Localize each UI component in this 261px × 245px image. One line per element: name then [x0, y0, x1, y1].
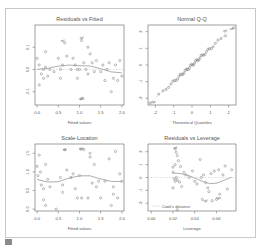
- data-point: [61, 184, 63, 186]
- y-tick-label: 1: [138, 46, 143, 49]
- chart-title: Residuals vs Leverage: [164, 135, 220, 141]
- y-tick-label: 1.0: [25, 168, 30, 174]
- data-point: [36, 165, 38, 167]
- data-point: [95, 59, 97, 61]
- data-point: [172, 187, 174, 189]
- data-point: [53, 71, 55, 73]
- data-point: [119, 59, 121, 61]
- data-point: [87, 46, 89, 48]
- point-annotation: xyz: [151, 100, 156, 104]
- data-point: [72, 173, 74, 175]
- x-tick-label: -2: [153, 110, 157, 115]
- y-tick-label: 0: [138, 176, 143, 179]
- x-tick-label: 2.0: [119, 216, 125, 221]
- data-point: [110, 204, 112, 206]
- data-point: [38, 154, 40, 156]
- data-point: [100, 71, 102, 73]
- y-tick-label: -1: [138, 188, 143, 192]
- data-point: [208, 191, 210, 193]
- y-tick-label: 0.0: [25, 66, 30, 72]
- data-point: [42, 188, 44, 190]
- data-point: [59, 176, 61, 178]
- data-point: [100, 197, 102, 199]
- data-point: [47, 75, 49, 77]
- data-point: [117, 79, 119, 81]
- data-point: [44, 204, 46, 206]
- data-point: [211, 200, 213, 202]
- data-point: [44, 51, 46, 53]
- data-point: [38, 84, 40, 86]
- data-point: [93, 163, 95, 165]
- data-point: [112, 77, 114, 79]
- x-tick-label: 1.5: [98, 110, 104, 115]
- chart-title: Residuals vs Fitted: [56, 16, 102, 22]
- data-point: [89, 152, 91, 154]
- data-point: [76, 197, 78, 199]
- data-point: [42, 199, 44, 201]
- x-tick-label: 0.0: [34, 216, 40, 221]
- data-point: [178, 181, 180, 183]
- data-point: [114, 150, 116, 152]
- data-point: [199, 57, 201, 59]
- data-point: [61, 191, 63, 193]
- data-point: [93, 71, 95, 73]
- data-point: [175, 151, 177, 153]
- data-point: [91, 182, 93, 184]
- x-tick-label: 2: [227, 110, 230, 115]
- y-tick-label: -2: [138, 96, 143, 100]
- data-point: [57, 57, 59, 59]
- plot-frame: Residuals vs FittedFitted values0.00.51.…: [5, 8, 256, 238]
- data-point: [181, 185, 183, 187]
- y-tick-label: 0.5: [25, 187, 30, 193]
- chart-residuals-vs-leverage: Residuals vs LeverageLeverage0.000.020.0…: [138, 135, 236, 231]
- data-point: [47, 178, 49, 180]
- x-axis-label: Leverage: [183, 226, 201, 231]
- point-annotation: rpf: [223, 29, 227, 33]
- point-annotation: ref: [61, 39, 65, 43]
- x-axis-label: Fitted values: [68, 226, 92, 231]
- data-point: [39, 171, 41, 173]
- data-point: [179, 165, 181, 167]
- data-point: [81, 39, 83, 41]
- data-point: [91, 62, 93, 64]
- data-point: [121, 75, 123, 77]
- point-annotation: rpf2: [79, 97, 85, 101]
- data-point: [110, 91, 112, 93]
- data-point: [40, 184, 42, 186]
- data-point: [81, 197, 83, 199]
- data-point: [55, 208, 57, 210]
- data-point: [44, 163, 46, 165]
- y-tick-label: 1: [138, 163, 143, 166]
- data-point: [40, 73, 42, 75]
- data-point: [102, 64, 104, 66]
- x-tick-label: 0.06: [212, 216, 221, 221]
- data-point: [217, 39, 219, 41]
- data-point: [176, 154, 178, 156]
- data-point: [83, 62, 85, 64]
- legend-label: Cook's distance: [162, 204, 191, 209]
- data-point: [172, 166, 174, 168]
- x-tick-label: 0.0: [34, 110, 40, 115]
- data-point: [176, 209, 178, 211]
- data-point: [119, 173, 121, 175]
- data-point: [59, 77, 61, 79]
- data-point: [194, 180, 196, 182]
- data-point: [174, 164, 176, 166]
- point-annotation: rpf: [80, 147, 84, 151]
- point-annotation: ref: [173, 146, 177, 150]
- x-tick-label: 0: [191, 110, 194, 115]
- x-axis-label: Theoretical Quantiles: [172, 120, 212, 125]
- smoother-line: [37, 65, 122, 73]
- plot-box: [35, 144, 124, 211]
- data-point: [114, 64, 116, 66]
- x-tick-label: 0.04: [191, 216, 200, 221]
- data-point: [218, 169, 220, 171]
- x-tick-label: 1.0: [77, 216, 83, 221]
- data-point: [222, 174, 224, 176]
- data-point: [231, 169, 233, 171]
- data-point: [207, 187, 209, 189]
- data-point: [108, 62, 110, 64]
- corner-marker: [5, 239, 12, 245]
- data-point: [224, 35, 226, 37]
- data-point: [42, 77, 44, 79]
